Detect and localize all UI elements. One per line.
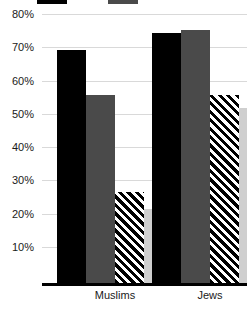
ytick-label-60: 60%: [0, 76, 34, 87]
bar-chart: 80% 70% 60% 50% 40% 30% 20% 10% Muslims …: [0, 0, 247, 311]
bar-muslims-series-1: [57, 50, 86, 283]
legend-swatch-dark-gray: [108, 0, 138, 4]
legend-entry-1: [37, 0, 70, 4]
bar-muslims-series-2: [86, 95, 115, 283]
ytick-label-10: 10%: [0, 242, 34, 253]
gridline-80: [42, 14, 247, 15]
plot-area: [42, 14, 247, 283]
bar-jews-series-4: [239, 108, 247, 283]
ytick-label-20: 20%: [0, 209, 34, 220]
xtick-label-muslims: Muslims: [95, 289, 135, 301]
bar-muslims-series-3: [115, 192, 144, 283]
bar-jews-series-2: [181, 30, 210, 283]
chart-legend: [0, 0, 247, 7]
x-axis-line: [42, 283, 247, 286]
gridline-70: [42, 47, 247, 48]
bar-jews-series-3: [210, 95, 239, 283]
xtick-label-jews: Jews: [197, 289, 222, 301]
ytick-label-50: 50%: [0, 109, 34, 120]
ytick-label-40: 40%: [0, 142, 34, 153]
ytick-label-80: 80%: [0, 9, 34, 20]
bar-jews-series-1: [152, 33, 181, 283]
legend-entry-2: [108, 0, 141, 4]
ytick-label-30: 30%: [0, 175, 34, 186]
legend-swatch-black: [37, 0, 67, 4]
ytick-label-70: 70%: [0, 42, 34, 53]
